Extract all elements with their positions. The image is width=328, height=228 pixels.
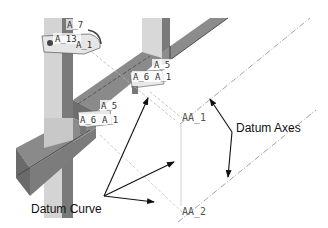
axis-label-aa2: AA_2 bbox=[182, 206, 206, 218]
tag-low-a1: A_1 bbox=[102, 115, 118, 125]
tag-mid-a1: A_1 bbox=[155, 72, 171, 82]
datum-curve-mid bbox=[150, 92, 182, 118]
tag-top-a1: A_1 bbox=[76, 40, 92, 50]
datum-axes-arrows bbox=[210, 99, 232, 177]
tag-mid-a5: A_5 bbox=[154, 60, 170, 70]
callout-datum-curve: Datum Curve bbox=[31, 202, 102, 216]
cad-diagram: A_7 A_13 A_1 A_5 A_6 A_1 A_5 A_6 A_1 AA_… bbox=[0, 0, 328, 228]
callout-datum-axes: Datum Axes bbox=[236, 121, 301, 135]
tag-mid-a6: A_6 bbox=[133, 72, 149, 82]
tag-low-a6: A_6 bbox=[80, 115, 96, 125]
tag-top-a7: A_7 bbox=[67, 20, 83, 30]
tag-top-a13: A_13 bbox=[55, 34, 77, 44]
axis-label-aa1: AA_1 bbox=[182, 112, 206, 124]
tag-low-a5: A_5 bbox=[101, 101, 117, 111]
datum-curve-arrows bbox=[104, 98, 174, 202]
